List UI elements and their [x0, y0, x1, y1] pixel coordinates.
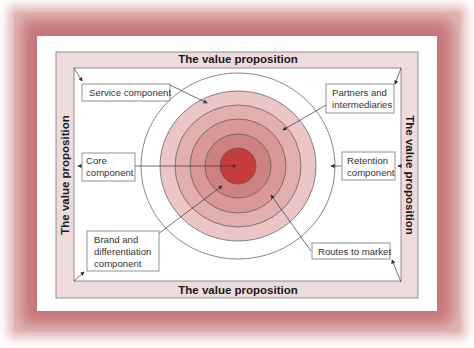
value-proposition-diagram: The value proposition The value proposit… — [0, 0, 474, 348]
bottom-label: The value proposition — [178, 284, 297, 296]
svg-text:component: component — [94, 258, 142, 269]
left-label: The value proposition — [59, 115, 71, 234]
svg-text:Brand and: Brand and — [94, 234, 138, 245]
svg-text:intermediaries: intermediaries — [332, 99, 392, 110]
component-retention: Retention component — [342, 152, 395, 180]
component-brand: Brand and differentiation component — [87, 231, 159, 271]
svg-text:component: component — [347, 167, 395, 178]
component-partners: Partners and intermediaries — [326, 84, 394, 113]
component-core: Core component — [82, 153, 135, 181]
svg-text:Partners and: Partners and — [332, 87, 387, 98]
right-label: The value proposition — [404, 115, 416, 234]
component-routes: Routes to market — [312, 243, 391, 259]
svg-text:Service component: Service component — [89, 87, 171, 98]
top-label: The value proposition — [178, 53, 297, 65]
svg-text:Retention: Retention — [347, 155, 388, 166]
component-service: Service component — [82, 84, 171, 101]
svg-text:component: component — [86, 167, 134, 178]
svg-text:differentiation: differentiation — [94, 246, 151, 257]
svg-text:Routes to market: Routes to market — [318, 246, 391, 257]
svg-text:Core: Core — [86, 155, 107, 166]
